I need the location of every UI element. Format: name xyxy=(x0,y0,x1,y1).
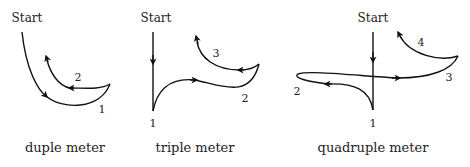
duple-beat-1: 1 xyxy=(99,104,106,115)
duple-pattern-path xyxy=(22,32,110,105)
triple-beat-2: 2 xyxy=(242,93,249,104)
quadruple-beat-3: 3 xyxy=(446,72,453,83)
triple-caption: triple meter xyxy=(155,141,234,154)
quadruple-pattern-path xyxy=(297,32,458,110)
duple-beat-2: 2 xyxy=(75,72,82,83)
triple-beat-1: 1 xyxy=(150,118,157,129)
quadruple-beat-2: 2 xyxy=(294,86,301,97)
quadruple-start-label: Start xyxy=(358,12,389,24)
duple-caption: duple meter xyxy=(25,141,105,154)
triple-start-label: Start xyxy=(141,12,172,24)
quadruple-beat-4: 4 xyxy=(418,37,425,48)
quadruple-beat-1: 1 xyxy=(370,118,377,129)
duple-start-label: Start xyxy=(12,12,43,24)
quadruple-caption: quadruple meter xyxy=(318,141,429,154)
triple-beat-3: 3 xyxy=(213,48,220,59)
